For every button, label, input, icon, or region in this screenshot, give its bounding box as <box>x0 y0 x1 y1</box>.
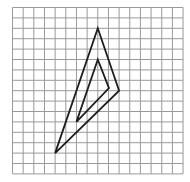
diagram-canvas <box>0 0 190 182</box>
grid <box>13 8 184 174</box>
grid-diagram <box>0 0 190 182</box>
